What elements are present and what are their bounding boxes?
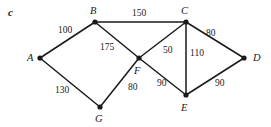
edge-weight-a-b: 100 [58, 26, 72, 36]
graph-node-e [183, 92, 188, 97]
graph-canvas [0, 0, 271, 127]
edge-weight-g-a: 130 [55, 86, 69, 96]
graph-node-c [183, 19, 188, 24]
node-label-g: G [95, 114, 103, 125]
node-label-f: F [134, 66, 140, 77]
graph-edge-b-f [95, 22, 139, 58]
node-label-e: E [181, 103, 187, 114]
graph-node-f [136, 55, 141, 60]
edge-weight-c-e: 110 [190, 49, 204, 59]
part-label-c: c [8, 7, 13, 18]
edge-weight-c-d: 80 [206, 29, 216, 39]
graph-node-a [37, 55, 42, 60]
node-label-a: A [27, 53, 33, 64]
edge-weight-e-f: 90 [157, 79, 167, 89]
node-label-c: C [181, 6, 188, 17]
edge-weight-d-e: 90 [215, 79, 225, 89]
graph-edge-g-a [40, 58, 100, 107]
node-label-b: B [90, 6, 96, 17]
graph-edge-d-e [186, 58, 244, 95]
edge-weight-b-f: 175 [100, 43, 114, 53]
edge-weight-f-g: 80 [128, 83, 138, 93]
graph-node-d [241, 55, 246, 60]
edge-weight-b-c: 150 [132, 9, 146, 19]
edge-weight-c-f: 50 [163, 46, 173, 56]
node-label-d: D [253, 53, 261, 64]
graph-edge-e-f [139, 58, 186, 95]
graph-figure: c ABCDEFG 1001501758011050909080130 [0, 0, 271, 127]
graph-node-b [92, 19, 97, 24]
graph-node-g [97, 104, 102, 109]
